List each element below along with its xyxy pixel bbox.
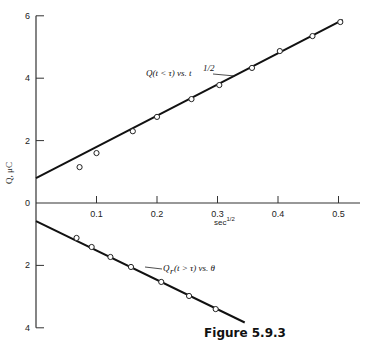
data-point-upper <box>217 82 222 87</box>
x-tick-label: 0.5 <box>332 209 345 219</box>
data-point-upper <box>154 114 159 119</box>
x-tick-label: 0.4 <box>272 209 285 219</box>
data-point-lower <box>186 293 191 298</box>
data-point-upper <box>310 33 315 38</box>
y-tick-label: 2 <box>25 136 30 146</box>
chart-plot: 0246240.10.20.30.40.5Q(t < τ) vs. t1/2Qr… <box>0 0 379 345</box>
y-tick-label: 4 <box>25 323 30 333</box>
data-point-lower <box>159 279 164 284</box>
data-point-upper <box>94 150 99 155</box>
y-tick-label: 2 <box>25 260 30 270</box>
x-axis-label-text: sec <box>214 218 226 227</box>
y-tick-label: 6 <box>25 11 30 21</box>
x-axis-label: sec1/2 <box>214 216 235 227</box>
data-point-upper <box>189 97 194 102</box>
annotation-leader-lower <box>145 267 162 269</box>
y-axis-label: Q, μC <box>4 162 14 184</box>
annotation-upper-sup: 1/2 <box>203 63 215 73</box>
figure-caption: Figure 5.9.3 <box>185 326 305 340</box>
annotation-lower: Q <box>163 263 170 273</box>
data-point-upper <box>277 48 282 53</box>
data-point-lower <box>74 235 79 240</box>
x-tick-label: 0.1 <box>90 209 103 219</box>
data-point-lower <box>213 306 218 311</box>
data-point-upper <box>77 165 82 170</box>
data-point-upper <box>338 19 343 24</box>
data-point-upper <box>130 129 135 134</box>
y-tick-label: 0 <box>25 198 30 208</box>
x-axis-label-sup: 1/2 <box>226 216 234 222</box>
data-point-lower <box>128 264 133 269</box>
annotation-leader-upper <box>213 74 235 76</box>
data-point-upper <box>249 65 254 70</box>
y-tick-label: 4 <box>25 73 30 83</box>
annotation-upper: Q(t < τ) vs. t <box>146 68 192 78</box>
data-point-lower <box>108 254 113 259</box>
annotation-lower-rest: (t > τ) vs. θ <box>174 263 216 273</box>
data-point-lower <box>89 244 94 249</box>
x-tick-label: 0.2 <box>151 209 164 219</box>
